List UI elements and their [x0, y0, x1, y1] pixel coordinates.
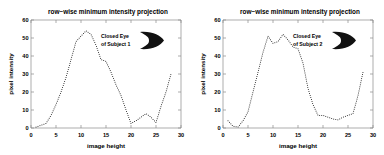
data-point [127, 113, 128, 114]
x-tick-label: 25 [345, 132, 351, 138]
data-point [163, 100, 164, 101]
data-point [111, 72, 112, 73]
data-point [109, 68, 110, 69]
data-point [76, 41, 77, 42]
data-point [68, 67, 69, 68]
y-axis-label: pixel intensity [7, 53, 14, 95]
data-point [131, 123, 132, 124]
data-point [239, 125, 240, 126]
data-point [310, 95, 311, 96]
data-point [77, 39, 78, 40]
data-point [67, 73, 68, 74]
data-point [360, 84, 361, 85]
data-point [294, 47, 295, 48]
data-point [60, 93, 61, 94]
data-point [303, 66, 304, 67]
data-point [98, 52, 99, 53]
data-point [157, 118, 158, 119]
data-point [89, 33, 90, 34]
data-point [122, 99, 123, 100]
data-point [353, 113, 354, 114]
data-point [232, 125, 233, 126]
y-tick-label: 30 [214, 71, 220, 77]
figure-root: row−wise minimum intensity projection 05… [0, 0, 384, 155]
data-point [266, 40, 267, 41]
data-point [329, 117, 330, 118]
data-point [101, 59, 102, 60]
data-point [123, 103, 124, 104]
data-point [305, 73, 306, 74]
data-point [94, 42, 95, 43]
data-point [144, 114, 145, 115]
data-point [345, 116, 346, 117]
data-point [361, 80, 362, 81]
data-point [170, 76, 171, 77]
plot-title: row−wise minimum intensity projection [240, 8, 360, 16]
data-point [169, 78, 170, 79]
data-point [245, 116, 246, 117]
data-point [265, 44, 266, 45]
data-point [312, 103, 313, 104]
data-point [71, 59, 72, 60]
data-point [56, 103, 57, 104]
y-tick-label: 10 [214, 107, 220, 113]
data-point [107, 64, 108, 65]
y-axis-label: pixel intensity [199, 53, 206, 95]
data-point [148, 115, 149, 116]
data-point [54, 108, 55, 109]
data-point [258, 70, 259, 71]
data-point [251, 98, 252, 99]
data-point [274, 42, 275, 43]
data-point [70, 61, 71, 62]
data-point [53, 110, 54, 111]
data-point [169, 80, 170, 81]
data-point [114, 80, 115, 81]
y-tick-label: 50 [22, 35, 28, 41]
data-point [161, 104, 162, 105]
data-point [168, 84, 169, 85]
data-point [106, 63, 107, 64]
data-point [282, 35, 283, 36]
data-point [52, 112, 53, 113]
data-point [298, 48, 299, 49]
data-point [136, 120, 137, 121]
data-point [73, 49, 74, 50]
data-point [246, 114, 247, 115]
right-plot-svg: row−wise minimum intensity projection 05… [192, 0, 384, 155]
data-point [262, 54, 263, 55]
data-point [66, 77, 67, 78]
y-axis-tick-labels: 0102030405060 [214, 17, 220, 131]
data-point [167, 86, 168, 87]
data-point [162, 102, 163, 103]
data-point [321, 115, 322, 116]
data-point [54, 107, 55, 108]
data-point [159, 110, 160, 111]
data-point [156, 120, 157, 121]
data-point [283, 34, 284, 35]
annotation-line-1: Closed Eye [101, 33, 129, 39]
data-point [120, 93, 121, 94]
annotation-line-2: of Subject 1 [101, 41, 131, 47]
data-point [160, 106, 161, 107]
data-point [255, 80, 256, 81]
data-point [84, 32, 85, 33]
data-point [325, 116, 326, 117]
data-point [248, 109, 249, 110]
data-point [117, 88, 118, 89]
data-point [309, 93, 310, 94]
data-point [250, 100, 251, 101]
data-point [266, 42, 267, 43]
data-point [248, 111, 249, 112]
x-tick-label: 15 [295, 132, 301, 138]
x-tick-label: 25 [153, 132, 159, 138]
data-point [124, 105, 125, 106]
data-point [158, 114, 159, 115]
data-point [170, 74, 171, 75]
data-point [70, 63, 71, 64]
data-point [160, 108, 161, 109]
data-point [251, 96, 252, 97]
x-tick-label: 5 [54, 132, 57, 138]
data-point [341, 118, 342, 119]
x-tick-label: 20 [128, 132, 134, 138]
x-tick-label: 10 [270, 132, 276, 138]
